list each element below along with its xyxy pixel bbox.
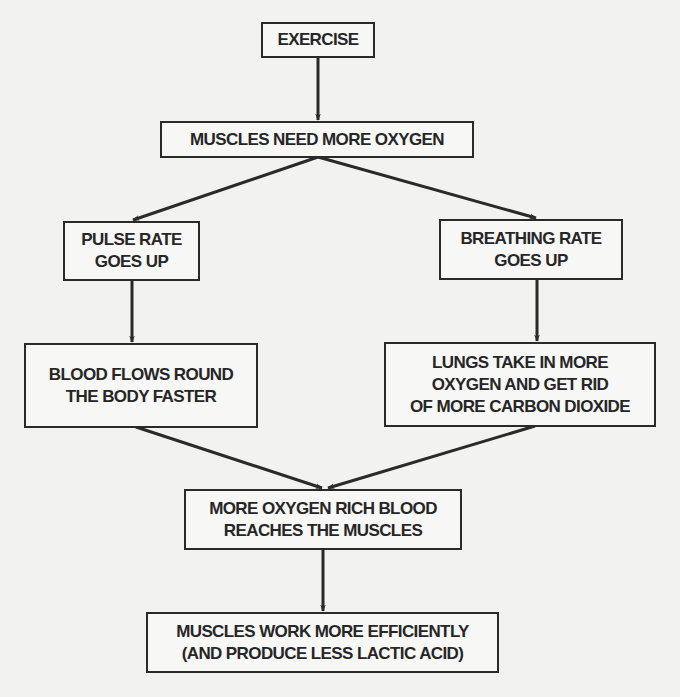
node-muscles-need-more-oxygen-line-1: MUSCLES NEED MORE OXYGEN [190, 129, 444, 151]
node-pulse-rate-line-1: PULSE RATE [81, 229, 181, 251]
arrow-muscles-need-oxygen-to-breathing-rate [318, 157, 536, 218]
node-muscles-efficient-line-1: MUSCLES WORK MORE EFFICIENTLY [176, 621, 469, 643]
arrow-blood-flows-to-oxygen-rich-blood [136, 427, 322, 488]
node-blood-flows-line-1: BLOOD FLOWS ROUND [49, 364, 233, 386]
node-oxygen-rich-blood-line-1: MORE OXYGEN RICH BLOOD [209, 498, 437, 520]
node-pulse-rate-line-2: GOES UP [95, 251, 168, 273]
node-muscles-efficient-line-2: (AND PRODUCE LESS LACTIC ACID) [182, 643, 464, 665]
node-oxygen-rich-blood-line-2: REACHES THE MUSCLES [224, 520, 422, 542]
node-lungs-take-in-more-oxygen: LUNGS TAKE IN MORE OXYGEN AND GET RID OF… [384, 342, 656, 427]
node-muscles-work-more-efficiently: MUSCLES WORK MORE EFFICIENTLY (AND PRODU… [146, 612, 499, 673]
node-lungs-line-3: OF MORE CARBON DIOXIDE [410, 396, 630, 418]
node-breathing-rate-line-1: BREATHING RATE [460, 228, 601, 250]
node-blood-flows-round-body: BLOOD FLOWS ROUND THE BODY FASTER [24, 343, 258, 428]
flowchart-canvas: EXERCISE MUSCLES NEED MORE OXYGEN PULSE … [0, 0, 680, 697]
arrow-muscles-need-oxygen-to-pulse-rate [133, 157, 318, 220]
node-oxygen-rich-blood-reaches-muscles: MORE OXYGEN RICH BLOOD REACHES THE MUSCL… [184, 489, 462, 550]
node-blood-flows-line-2: THE BODY FASTER [66, 386, 216, 408]
node-breathing-rate-line-2: GOES UP [494, 250, 567, 272]
arrow-lungs-to-oxygen-rich-blood [328, 426, 535, 488]
node-lungs-line-2: OXYGEN AND GET RID [432, 374, 609, 396]
node-muscles-need-more-oxygen: MUSCLES NEED MORE OXYGEN [160, 121, 474, 158]
node-breathing-rate-goes-up: BREATHING RATE GOES UP [439, 219, 623, 280]
node-lungs-line-1: LUNGS TAKE IN MORE [432, 352, 608, 374]
node-exercise-line-1: EXERCISE [277, 29, 358, 51]
node-pulse-rate-goes-up: PULSE RATE GOES UP [63, 221, 200, 281]
node-exercise: EXERCISE [261, 22, 375, 58]
